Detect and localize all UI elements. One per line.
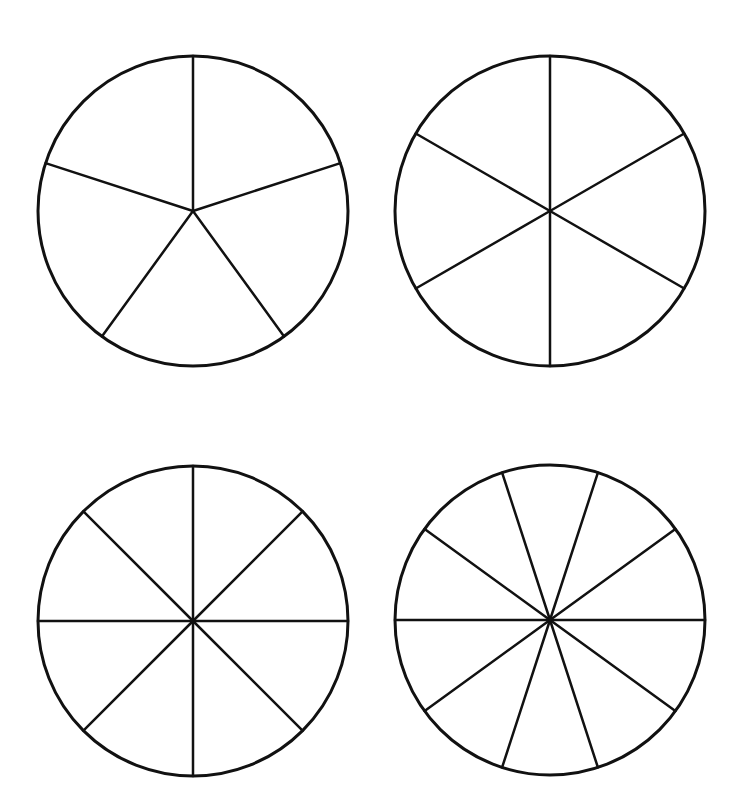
section-divider (416, 211, 550, 289)
section-divider (550, 473, 598, 620)
section-divider (83, 511, 193, 621)
section-divider (550, 620, 598, 767)
circle-fifths (38, 56, 348, 366)
section-divider (46, 163, 193, 211)
section-divider (550, 134, 684, 212)
section-divider (193, 211, 284, 336)
section-divider (193, 621, 303, 731)
section-divider (193, 511, 303, 621)
divided-circles-diagram (0, 0, 741, 809)
section-divider (550, 620, 675, 711)
circle-tenths (395, 465, 705, 775)
section-divider (550, 211, 684, 289)
section-divider (425, 529, 550, 620)
section-divider (102, 211, 193, 336)
section-divider (502, 473, 550, 620)
section-divider (502, 620, 550, 767)
circle-eighths (38, 466, 348, 776)
section-divider (83, 621, 193, 731)
circle-sixths (395, 56, 705, 366)
section-divider (416, 134, 550, 212)
section-divider (193, 163, 340, 211)
section-divider (425, 620, 550, 711)
section-divider (550, 529, 675, 620)
